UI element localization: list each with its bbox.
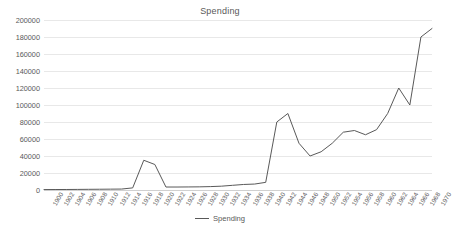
legend-line-marker xyxy=(195,218,209,219)
chart-legend: Spending xyxy=(0,214,440,223)
legend-item-spending: Spending xyxy=(213,214,245,223)
x-axis: 1900190219041906190819101912191419161918… xyxy=(44,191,432,215)
x-tick-label: 1906 xyxy=(84,191,97,207)
x-tick-label: 1950 xyxy=(328,191,341,207)
x-tick-label: 1936 xyxy=(251,191,264,207)
y-tick-label: 0 xyxy=(36,186,40,195)
y-tick-label: 100000 xyxy=(16,101,40,110)
chart-title: Spending xyxy=(0,6,440,16)
y-tick-label: 80000 xyxy=(20,118,40,127)
x-tick-label: 1960 xyxy=(384,191,397,207)
x-tick-label: 1902 xyxy=(62,191,75,207)
y-tick-label: 200000 xyxy=(16,16,40,25)
y-tick-label: 20000 xyxy=(20,169,40,178)
x-tick-label: 1900 xyxy=(51,191,64,207)
x-tick-label: 1956 xyxy=(362,191,375,207)
plot-wrapper: 0200004000060000800001000001200001400001… xyxy=(0,20,440,190)
x-tick-label: 1932 xyxy=(228,191,241,207)
y-tick-label: 120000 xyxy=(16,84,40,93)
x-tick-label: 1930 xyxy=(217,191,230,207)
x-tick-label: 1928 xyxy=(206,191,219,207)
y-tick-label: 160000 xyxy=(16,50,40,59)
series-spending xyxy=(44,20,432,190)
x-tick-label: 1946 xyxy=(306,191,319,207)
x-tick-label: 1952 xyxy=(339,191,352,207)
y-tick-label: 40000 xyxy=(20,152,40,161)
x-tick-label: 1954 xyxy=(350,191,363,207)
x-tick-label: 1904 xyxy=(73,191,86,207)
x-tick-label: 1912 xyxy=(118,191,131,207)
plot-area xyxy=(44,20,432,190)
y-tick-label: 60000 xyxy=(20,135,40,144)
x-tick-label: 1908 xyxy=(95,191,108,207)
y-tick-label: 140000 xyxy=(16,67,40,76)
x-tick-label: 1958 xyxy=(373,191,386,207)
x-tick-label: 1910 xyxy=(107,191,120,207)
x-tick-label: 1926 xyxy=(195,191,208,207)
y-tick-label: 180000 xyxy=(16,33,40,42)
y-axis: 0200004000060000800001000001200001400001… xyxy=(0,20,42,190)
series-spending-line xyxy=(44,29,432,190)
x-tick-label: 1934 xyxy=(240,191,253,207)
x-tick-label: 1924 xyxy=(184,191,197,207)
x-tick-label: 1948 xyxy=(317,191,330,207)
